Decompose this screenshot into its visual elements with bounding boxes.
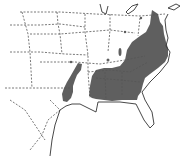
outlier-1 xyxy=(119,48,122,56)
range-map xyxy=(0,0,185,156)
range-fill xyxy=(62,10,168,102)
western-range-area xyxy=(62,63,82,102)
main-range-area xyxy=(89,10,168,101)
outlier-2 xyxy=(107,59,110,62)
